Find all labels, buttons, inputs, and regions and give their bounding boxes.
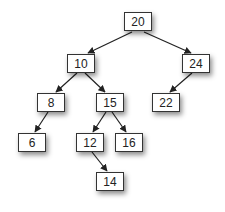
node-label: 12 — [83, 136, 96, 150]
edge-8-6 — [35, 112, 48, 132]
tree-node-12: 12 — [76, 133, 104, 152]
edge-20-10 — [88, 32, 132, 53]
edge-24-22 — [170, 73, 192, 92]
node-label: 14 — [103, 175, 116, 189]
tree-node-10: 10 — [67, 54, 95, 73]
tree-node-16: 16 — [115, 133, 143, 152]
edge-10-15 — [85, 73, 105, 92]
edge-15-16 — [112, 112, 126, 132]
node-label: 6 — [29, 136, 36, 150]
edge-15-12 — [93, 112, 106, 132]
edge-12-14 — [92, 152, 107, 171]
node-label: 8 — [48, 96, 55, 110]
node-label: 10 — [74, 57, 87, 71]
tree-node-22: 22 — [152, 93, 180, 112]
tree-node-20: 20 — [124, 12, 152, 31]
edge-20-24 — [144, 32, 191, 53]
edge-10-8 — [56, 73, 77, 92]
node-label: 15 — [103, 96, 116, 110]
tree-node-6: 6 — [18, 133, 46, 152]
node-label: 22 — [159, 96, 172, 110]
node-label: 24 — [189, 57, 202, 71]
tree-node-14: 14 — [96, 172, 124, 191]
tree-node-15: 15 — [96, 93, 124, 112]
tree-node-8: 8 — [37, 93, 65, 112]
node-label: 20 — [131, 15, 144, 29]
tree-node-24: 24 — [182, 54, 210, 73]
node-label: 16 — [122, 136, 135, 150]
